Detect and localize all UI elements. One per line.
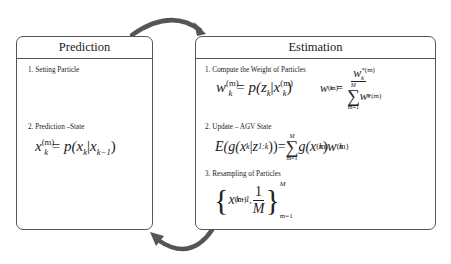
arrow-prediction-to-estimation <box>132 20 206 36</box>
weight-fraction: w*(m)k M∑m=1 w*(m)k <box>347 66 370 110</box>
estimation-step-3-label: 3. Resampling of Particles <box>205 170 281 178</box>
normalized-weight-formula: w(m)k = w*(m)k M∑m=1 w*(m)k <box>320 66 371 110</box>
estimation-step-1-label: 1. Compute the Weight of Particles <box>205 66 306 74</box>
one-over-m-fraction: 1M <box>253 184 265 217</box>
estimation-step-2-label: 2. Update – AGV State <box>205 123 271 131</box>
prediction-state-formula: x(m)k = p(xk|xk−1) <box>35 138 116 155</box>
resampling-formula: { x(m)k−1 , 1M } M m=1 <box>214 180 293 220</box>
prediction-step-1-label: 1. Setting Particle <box>28 66 79 74</box>
weight-formula: w(m)k = p(zk|x(m)k) <box>216 79 292 96</box>
estimation-title: Estimation <box>196 37 435 59</box>
summation-symbol: M∑m=1 <box>286 133 299 161</box>
state-update-formula: E(g(xk|z1:k))= M∑m=1 g(x(m)k)w(m)k <box>215 133 343 161</box>
summation-symbol: M∑m=1 <box>347 82 360 110</box>
prediction-title: Prediction <box>17 37 152 59</box>
prediction-step-2-label: 2. Prediction –State <box>28 123 85 131</box>
arrow-estimation-to-prediction <box>150 230 212 249</box>
